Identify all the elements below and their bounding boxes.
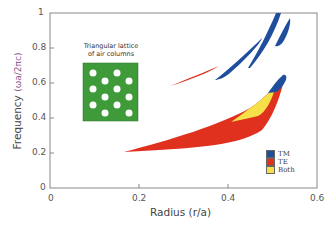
tm-band-2 <box>248 13 281 68</box>
x-ticks <box>139 184 228 188</box>
y-axis-label-unit: (ωa/2πc) <box>13 53 23 92</box>
both-swatch <box>266 166 275 174</box>
y-ticks <box>50 48 54 153</box>
te-swatch <box>266 158 275 166</box>
legend-item-tm: TM <box>266 150 295 158</box>
inset-title-line2: of air columns <box>76 50 146 58</box>
lattice-inset <box>83 63 138 121</box>
y-tick-1: 1 <box>38 7 44 17</box>
y-axis-label: Frequency (ωa/2πc) <box>11 46 23 156</box>
y-tick-0: 0 <box>40 182 46 192</box>
te-main-gap-region <box>124 80 283 152</box>
y-tick-0.4: 0.4 <box>32 112 46 122</box>
te-upper-band <box>170 66 219 86</box>
y-axis-label-main: Frequency <box>11 92 23 150</box>
y-tick-0.6: 0.6 <box>32 77 46 87</box>
tm-swatch <box>266 150 275 158</box>
x-tick-0.6: 0.6 <box>310 193 324 203</box>
inset-title-line1: Triangular lattice <box>76 42 146 50</box>
x-axis-label: Radius (r/a) <box>150 206 211 218</box>
legend: TM TE Both <box>266 150 295 174</box>
y-tick-0.8: 0.8 <box>32 42 46 52</box>
x-tick-0: 0 <box>48 193 54 203</box>
legend-label-both: Both <box>278 166 295 174</box>
inset-title: Triangular lattice of air columns <box>76 42 146 58</box>
y-tick-0.2: 0.2 <box>32 147 46 157</box>
tm-tip-region <box>268 75 286 93</box>
legend-label-tm: TM <box>278 150 290 158</box>
x-tick-0.4: 0.4 <box>221 193 235 203</box>
x-tick-0.2: 0.2 <box>132 193 146 203</box>
legend-label-te: TE <box>278 158 288 166</box>
legend-item-both: Both <box>266 166 295 174</box>
photonic-gap-map-chart: 1 0.8 0.6 0.4 0.2 0 0 0.2 0.4 0.6 Freque… <box>0 0 332 228</box>
legend-item-te: TE <box>266 158 295 166</box>
